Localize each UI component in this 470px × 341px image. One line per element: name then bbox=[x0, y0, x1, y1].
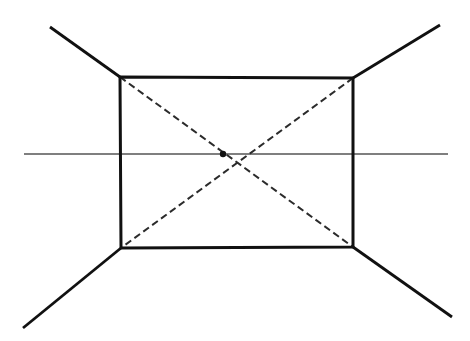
perspective-box-drawing bbox=[0, 0, 470, 341]
center-point-dot bbox=[220, 151, 226, 157]
figure-canvas bbox=[0, 0, 470, 341]
